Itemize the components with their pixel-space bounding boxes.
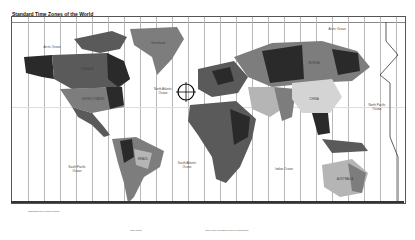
label-australia: AUSTRALIA xyxy=(330,177,360,181)
label-arctic-ocean-east: Arctic Ocean xyxy=(322,27,352,31)
label-north-pacific-east: North Pacific Ocean xyxy=(364,103,390,111)
label-south-atlantic: South Atlantic Ocean xyxy=(174,161,200,169)
label-north-atlantic: North Atlantic Ocean xyxy=(150,87,176,95)
continents xyxy=(12,17,405,203)
label-south-pacific: South Pacific Ocean xyxy=(64,165,90,173)
label-greenland: Greenland xyxy=(144,41,172,45)
label-arctic-ocean-west: Arctic Ocean xyxy=(37,45,67,49)
label-russia: RUSSIA xyxy=(302,61,326,65)
legend-notes: Standard time zones legend xyxy=(28,210,68,213)
time-zone-footer-bar xyxy=(11,201,404,203)
footer-note-left: Map notes xyxy=(130,229,180,232)
label-united-states: UNITED STATES xyxy=(76,97,110,101)
world-map: Arctic Ocean Arctic Ocean CANADA UNITED … xyxy=(11,16,406,204)
label-canada: CANADA xyxy=(72,67,102,71)
label-brazil: BRAZIL xyxy=(132,157,154,161)
label-indian-ocean: Indian Ocean xyxy=(272,167,296,171)
label-china: CHINA xyxy=(302,97,326,101)
footer-note-right: Time zone boundaries as of publication xyxy=(205,229,265,232)
